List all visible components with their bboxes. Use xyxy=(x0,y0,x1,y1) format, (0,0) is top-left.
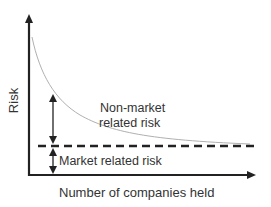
arrow-down-icon xyxy=(49,136,57,144)
arrow-up-icon xyxy=(49,94,57,102)
x-axis-label: Number of companies held xyxy=(59,185,214,200)
non-market-risk-label-line1: Non-market xyxy=(100,101,165,116)
y-axis-label: Risk xyxy=(6,86,21,116)
market-risk-label: Market related risk xyxy=(59,154,162,169)
non-market-risk-label-line2: related risk xyxy=(99,116,160,131)
arrow-up-icon xyxy=(49,148,57,156)
x-axis-arrowhead-icon xyxy=(247,171,256,179)
arrow-down-icon xyxy=(49,166,57,174)
y-axis-arrowhead-icon xyxy=(25,14,33,23)
